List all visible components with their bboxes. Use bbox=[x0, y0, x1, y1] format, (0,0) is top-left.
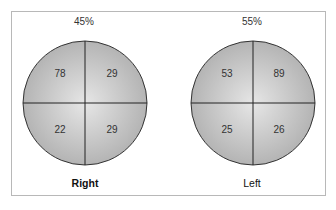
quadrant-top-right: 89 bbox=[264, 68, 294, 79]
quadrant-top-right: 29 bbox=[97, 68, 127, 79]
quadrant-bottom-left: 22 bbox=[45, 124, 75, 135]
panel-label: Right bbox=[1, 177, 169, 189]
quadrant-top-left: 53 bbox=[212, 68, 242, 79]
quadrant-bottom-right: 26 bbox=[264, 124, 294, 135]
panel-left: 55% 53 89 25 26 Left bbox=[168, 0, 336, 210]
quadrant-bottom-left: 25 bbox=[212, 124, 242, 135]
panel-label: Left bbox=[168, 177, 336, 189]
quadrant-bottom-right: 29 bbox=[97, 124, 127, 135]
quadrant-top-left: 78 bbox=[45, 68, 75, 79]
panel-right: 45% 78 29 22 29 Right bbox=[0, 0, 168, 210]
